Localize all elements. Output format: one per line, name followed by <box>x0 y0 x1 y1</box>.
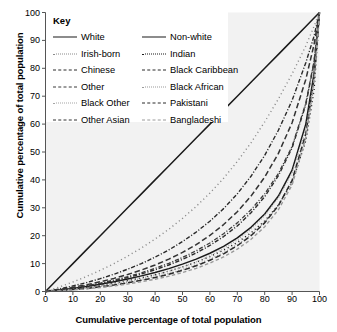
legend-item-label: Chinese <box>81 65 115 75</box>
legend-swatch-dotted-icon <box>142 49 166 59</box>
x-tick-label: 100 <box>308 294 332 304</box>
legend-item-label: Other Asian <box>81 115 130 125</box>
legend-item: Chinese <box>53 62 145 79</box>
legend-item: Non-white <box>142 29 228 46</box>
legend-swatch-finedot-icon <box>53 98 77 108</box>
legend-item-label: Black Caribbean <box>170 65 238 75</box>
legend-item-label: Bangladeshi <box>170 115 221 125</box>
legend-item: Black Other <box>53 95 145 112</box>
x-tick-label: 40 <box>143 294 167 304</box>
x-tick-label: 80 <box>253 294 277 304</box>
legend-swatch-finedot-icon <box>142 82 166 92</box>
x-tick-label: 50 <box>171 294 195 304</box>
legend-item: Irish-born <box>53 46 145 63</box>
x-tick-label: 0 <box>34 294 58 304</box>
legend-swatch-solid-icon <box>142 32 166 42</box>
legend-item: Black Caribbean <box>142 62 228 79</box>
legend-swatch-dashed-icon <box>142 98 166 108</box>
legend-item: Bangladeshi <box>142 112 228 129</box>
x-tick-label: 60 <box>198 294 222 304</box>
legend-item-label: Other <box>81 82 104 92</box>
legend-item: Indian <box>142 46 228 63</box>
legend-item-label: Indian <box>170 49 195 59</box>
x-tick-label: 90 <box>280 294 304 304</box>
legend-item: Other Asian <box>53 112 145 129</box>
legend-swatch-solid-icon <box>53 32 77 42</box>
legend-swatch-dashdot-icon <box>53 65 77 75</box>
legend-item: Other <box>53 79 145 96</box>
legend-item: Pakistani <box>142 95 228 112</box>
legend-swatch-dashdot-icon <box>53 82 77 92</box>
legend-item-label: White <box>81 32 105 42</box>
chart-figure: 0102030405060708090100 01020304050607080… <box>0 0 337 332</box>
x-axis-label: Cumulative percentage of total populatio… <box>0 314 337 325</box>
legend-item-label: Black African <box>170 82 224 92</box>
x-tick-label: 10 <box>61 294 85 304</box>
x-axis-ticks: 0102030405060708090100 <box>0 294 337 310</box>
legend-item: White <box>53 29 145 46</box>
y-axis-label: Cumulative percentage of total populatio… <box>14 11 25 241</box>
legend-column-right: Non-whiteIndianBlack CaribbeanBlack Afri… <box>142 29 228 128</box>
legend-item-label: Irish-born <box>81 49 120 59</box>
legend-swatch-dashedlight-icon <box>142 115 166 125</box>
legend-item-label: Non-white <box>170 32 212 42</box>
x-tick-label: 30 <box>116 294 140 304</box>
legend-swatch-dashdot-icon <box>142 65 166 75</box>
x-tick-label: 70 <box>225 294 249 304</box>
chart-legend: Key WhiteIrish-bornChineseOtherBlack Oth… <box>46 11 228 122</box>
legend-swatch-dotted-icon <box>53 49 77 59</box>
legend-item-label: Black Other <box>81 98 130 108</box>
legend-column-left: WhiteIrish-bornChineseOtherBlack OtherOt… <box>53 29 145 128</box>
legend-title: Key <box>53 15 70 26</box>
legend-item-label: Pakistani <box>170 98 208 108</box>
x-tick-label: 20 <box>88 294 112 304</box>
y-tick-label: 10 <box>20 259 40 269</box>
legend-item: Black African <box>142 79 228 96</box>
legend-swatch-dashed-icon <box>53 115 77 125</box>
